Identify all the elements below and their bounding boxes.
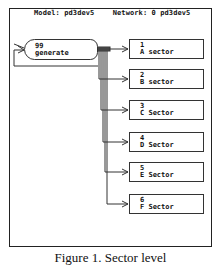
sector-letter: B bbox=[140, 78, 144, 86]
sector-node-e[interactable]: 5 E Sector bbox=[129, 162, 204, 182]
figure-caption: Figure 1. Sector level bbox=[0, 250, 221, 266]
sector-node-d[interactable]: 4 D Sector bbox=[129, 132, 204, 152]
sector-letter: F bbox=[140, 203, 144, 211]
sector-letter: C bbox=[140, 109, 144, 117]
sector-label: sector bbox=[148, 48, 173, 56]
generate-node[interactable]: 99 generate bbox=[24, 39, 98, 60]
sector-label: sector bbox=[148, 78, 173, 86]
sector-node-a[interactable]: 1 A sector bbox=[129, 39, 204, 59]
sector-label: Sector bbox=[148, 203, 173, 211]
sector-letter: E bbox=[140, 171, 144, 179]
sector-label: Sector bbox=[148, 109, 173, 117]
sector-node-b[interactable]: 2 B sector bbox=[129, 69, 204, 89]
sector-letter: A bbox=[140, 48, 144, 56]
sector-label: Sector bbox=[148, 141, 173, 149]
sector-label: Sector bbox=[148, 171, 173, 179]
sector-letter: D bbox=[140, 141, 144, 149]
generate-label: generate bbox=[35, 50, 97, 57]
sector-node-c[interactable]: 3 C Sector bbox=[129, 100, 204, 120]
sector-node-f[interactable]: 6 F Sector bbox=[129, 194, 204, 214]
